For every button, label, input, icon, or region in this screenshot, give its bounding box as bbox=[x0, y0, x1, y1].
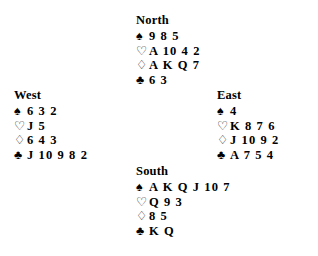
hand-south-hearts: Q 9 3 bbox=[149, 195, 183, 210]
club-icon: ♣ bbox=[136, 73, 149, 88]
hand-east-diamonds: J 10 9 2 bbox=[230, 133, 279, 148]
hand-west: West ♠ 6 3 2 ♡ J 5 ♢ 6 4 3 ♣ J 10 9 8 2 bbox=[14, 88, 88, 162]
spade-icon: ♠ bbox=[136, 29, 149, 44]
heart-icon: ♡ bbox=[136, 195, 149, 210]
hand-south-diamonds-line: ♢ 8 5 bbox=[136, 209, 231, 224]
hand-south-label: South bbox=[136, 164, 231, 179]
hand-east-hearts-line: ♡ K 8 7 6 bbox=[217, 119, 279, 134]
heart-icon: ♡ bbox=[217, 119, 230, 134]
hand-south-clubs-line: ♣ K Q bbox=[136, 224, 231, 239]
hand-north-hearts-line: ♡ A 10 4 2 bbox=[136, 44, 201, 59]
diamond-icon: ♢ bbox=[217, 133, 230, 148]
bridge-hand-diagram: North ♠ 9 8 5 ♡ A 10 4 2 ♢ A K Q 7 ♣ 6 3… bbox=[0, 0, 318, 256]
hand-east-clubs: A 7 5 4 bbox=[230, 148, 274, 163]
hand-west-diamonds-line: ♢ 6 4 3 bbox=[14, 133, 88, 148]
hand-east-label: East bbox=[217, 88, 279, 103]
hand-east-diamonds-line: ♢ J 10 9 2 bbox=[217, 133, 279, 148]
hand-west-clubs-line: ♣ J 10 9 8 2 bbox=[14, 148, 88, 163]
hand-west-hearts-line: ♡ J 5 bbox=[14, 119, 88, 134]
club-icon: ♣ bbox=[14, 148, 27, 163]
spade-icon: ♠ bbox=[14, 104, 27, 119]
hand-south-clubs: K Q bbox=[149, 224, 175, 239]
hand-north-diamonds-line: ♢ A K Q 7 bbox=[136, 58, 201, 73]
club-icon: ♣ bbox=[136, 224, 149, 239]
hand-north-suits: ♠ 9 8 5 ♡ A 10 4 2 ♢ A K Q 7 ♣ 6 3 bbox=[136, 29, 201, 87]
hand-east-spades-line: ♠ 4 bbox=[217, 104, 279, 119]
diamond-icon: ♢ bbox=[14, 133, 27, 148]
hand-east-spades: 4 bbox=[230, 104, 237, 119]
hand-south-spades: A K Q J 10 7 bbox=[149, 180, 231, 195]
hand-north-clubs: 6 3 bbox=[149, 73, 168, 88]
hand-north: North ♠ 9 8 5 ♡ A 10 4 2 ♢ A K Q 7 ♣ 6 3 bbox=[136, 13, 201, 87]
hand-east: East ♠ 4 ♡ K 8 7 6 ♢ J 10 9 2 ♣ A 7 5 4 bbox=[217, 88, 279, 162]
hand-south-spades-line: ♠ A K Q J 10 7 bbox=[136, 180, 231, 195]
hand-west-diamonds: 6 4 3 bbox=[27, 133, 58, 148]
heart-icon: ♡ bbox=[136, 44, 149, 59]
hand-south-hearts-line: ♡ Q 9 3 bbox=[136, 195, 231, 210]
hand-east-clubs-line: ♣ A 7 5 4 bbox=[217, 148, 279, 163]
hand-east-suits: ♠ 4 ♡ K 8 7 6 ♢ J 10 9 2 ♣ A 7 5 4 bbox=[217, 104, 279, 162]
hand-north-diamonds: A K Q 7 bbox=[149, 58, 200, 73]
club-icon: ♣ bbox=[217, 148, 230, 163]
hand-north-clubs-line: ♣ 6 3 bbox=[136, 73, 201, 88]
heart-icon: ♡ bbox=[14, 119, 27, 134]
hand-west-suits: ♠ 6 3 2 ♡ J 5 ♢ 6 4 3 ♣ J 10 9 8 2 bbox=[14, 104, 88, 162]
spade-icon: ♠ bbox=[217, 104, 230, 119]
hand-west-spades-line: ♠ 6 3 2 bbox=[14, 104, 88, 119]
hand-south-diamonds: 8 5 bbox=[149, 209, 168, 224]
hand-south: South ♠ A K Q J 10 7 ♡ Q 9 3 ♢ 8 5 ♣ K Q bbox=[136, 164, 231, 238]
hand-north-spades-line: ♠ 9 8 5 bbox=[136, 29, 201, 44]
hand-north-spades: 9 8 5 bbox=[149, 29, 180, 44]
spade-icon: ♠ bbox=[136, 180, 149, 195]
hand-north-label: North bbox=[136, 13, 201, 28]
hand-west-spades: 6 3 2 bbox=[27, 104, 58, 119]
diamond-icon: ♢ bbox=[136, 209, 149, 224]
hand-south-suits: ♠ A K Q J 10 7 ♡ Q 9 3 ♢ 8 5 ♣ K Q bbox=[136, 180, 231, 238]
diamond-icon: ♢ bbox=[136, 58, 149, 73]
hand-north-hearts: A 10 4 2 bbox=[149, 44, 201, 59]
hand-west-hearts: J 5 bbox=[27, 119, 46, 134]
hand-west-label: West bbox=[14, 88, 88, 103]
hand-west-clubs: J 10 9 8 2 bbox=[27, 148, 88, 163]
hand-east-hearts: K 8 7 6 bbox=[230, 119, 276, 134]
